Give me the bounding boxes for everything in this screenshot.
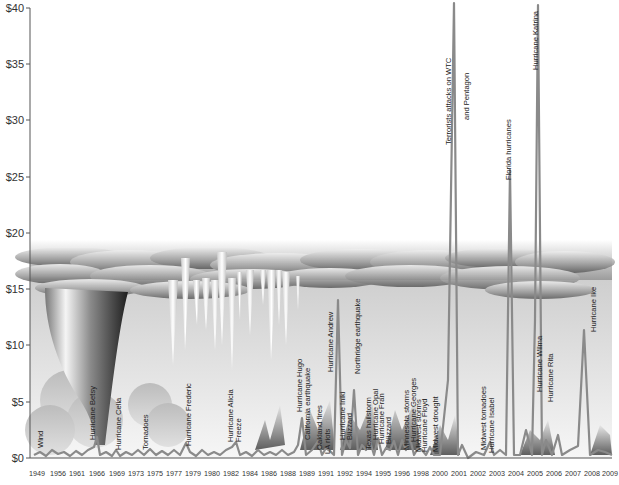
x-tick: 1998 [413, 469, 429, 478]
y-axis-labels: $0 $5 $10 $15 $20 $25 $30 $35 $40 [6, 2, 24, 464]
y-tick: $25 [6, 171, 24, 183]
event-label: Florida hurricanes [504, 119, 513, 180]
x-axis-labels: 1949 1956 1961 1966 1969 1973 1975 1977 … [29, 469, 618, 478]
event-label: Hurricane Wilma [535, 335, 544, 392]
x-tick: 2009 [602, 469, 618, 478]
event-label: and Pentagon [462, 73, 471, 120]
x-tick: 2001 [451, 469, 467, 478]
y-tick: $0 [12, 452, 24, 464]
event-label: Hurricane Katrina [531, 10, 540, 70]
x-tick: 2006 [546, 469, 562, 478]
x-tick: 2000 [432, 469, 448, 478]
event-label: Hurricane Rita [546, 353, 555, 402]
x-tick: 2007 [565, 469, 581, 478]
event-label: Hurricane Floyd [420, 398, 429, 452]
event-label: Hurricane Ike [589, 287, 598, 332]
x-tick: 1949 [29, 469, 45, 478]
x-tick: 1969 [109, 469, 125, 478]
x-tick: 2008 [584, 469, 600, 478]
y-tick: $15 [6, 283, 24, 295]
event-label: Blizzard [345, 413, 354, 440]
event-label: Tornadoes [141, 414, 150, 450]
y-tick: $35 [6, 58, 24, 70]
event-label: Midwest drought [431, 395, 440, 452]
y-tick: $30 [6, 114, 24, 126]
x-tick: 1975 [147, 469, 163, 478]
x-tick: 1996 [394, 469, 410, 478]
event-label: Hurricane Frederic [184, 383, 193, 446]
x-tick: 1982 [223, 469, 239, 478]
y-tick: $20 [6, 227, 24, 239]
x-tick: 1956 [50, 469, 66, 478]
x-tick: 2004 [508, 469, 524, 478]
y-tick: $10 [6, 339, 24, 351]
x-tick: 1989 [299, 469, 315, 478]
x-tick: 1992 [337, 469, 353, 478]
event-label: Hurricane Celia [114, 397, 123, 450]
x-tick: 2002 [470, 469, 486, 478]
event-label: Northridge earthquake [353, 298, 362, 374]
x-tick: 1995 [375, 469, 391, 478]
x-tick: 1991 [318, 469, 334, 478]
event-label: Hurricane Betsy [88, 386, 97, 440]
event-label: Hurricane Andrew [326, 311, 335, 372]
event-label: Terrorists attacks on WTC [444, 57, 453, 145]
x-tick: 1966 [89, 469, 105, 478]
event-label: California earthquake [303, 368, 312, 440]
event-label: Wind [36, 431, 45, 448]
y-tick: $5 [12, 396, 24, 408]
x-tick: 2003 [489, 469, 505, 478]
x-tick: 2005 [527, 469, 543, 478]
x-tick: 1984 [242, 469, 258, 478]
event-label: Blizzard [384, 417, 393, 444]
x-tick: 1988 [280, 469, 296, 478]
insured-losses-chart: $0 $5 $10 $15 $20 $25 $30 $35 $40 1949 1… [0, 0, 619, 485]
x-tick: 1986 [261, 469, 277, 478]
x-tick: 1980 [204, 469, 220, 478]
event-label: Freeze [234, 418, 243, 442]
x-tick: 1977 [166, 469, 182, 478]
x-tick: 1961 [69, 469, 85, 478]
x-tick: 1973 [128, 469, 144, 478]
event-label: Hurricane Isabel [487, 397, 496, 453]
x-tick: 1994 [356, 469, 372, 478]
x-tick: 1979 [185, 469, 201, 478]
y-tick: $40 [6, 2, 24, 14]
chart-svg: $0 $5 $10 $15 $20 $25 $30 $35 $40 1949 1… [0, 0, 619, 485]
event-label: LA riots [323, 428, 332, 454]
